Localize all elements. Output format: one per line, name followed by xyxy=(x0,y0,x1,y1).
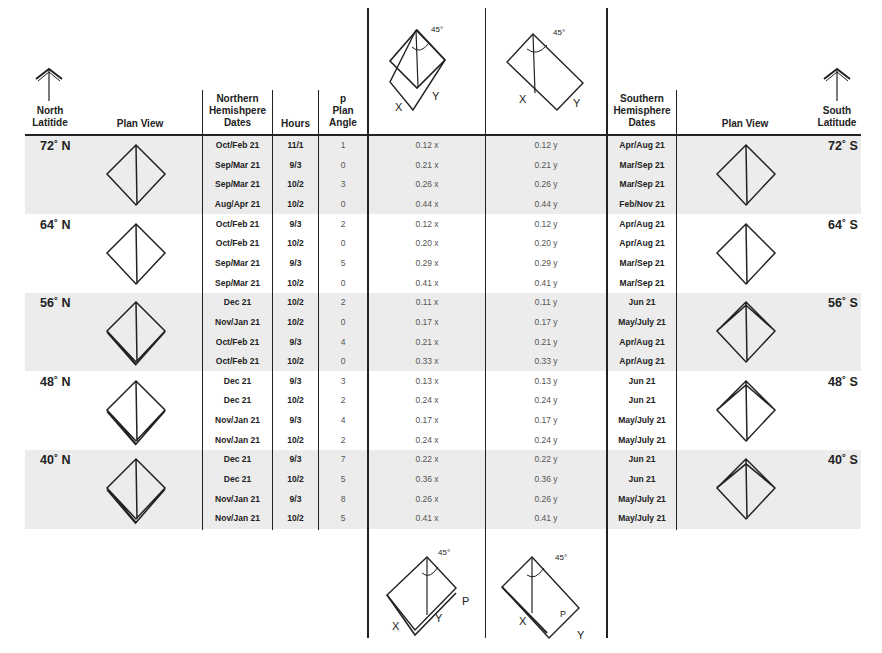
northern-date-cell: Sep/Mar 21 xyxy=(203,254,272,274)
northern-date-cell: Nov/Jan 21 xyxy=(203,490,272,510)
x-factor-cell: 0.12 x xyxy=(369,215,485,235)
svg-text:X: X xyxy=(519,93,527,105)
table-row: Nov/Jan 219/340.17 x0.17 yMay/July 21 xyxy=(0,411,882,431)
hours-cell: 10/2 xyxy=(273,431,318,451)
plan-angle-cell: 0 xyxy=(319,195,367,215)
header-hours: Hours xyxy=(273,118,318,130)
header-plan-angle: p Plan Angle xyxy=(319,93,367,129)
southern-date-cell: Jun 21 xyxy=(608,372,676,392)
x-factor-cell: 0.29 x xyxy=(369,254,485,274)
table-row: Oct/Feb 2110/200.33 x0.33 yApr/Aug 21 xyxy=(0,352,882,372)
svg-text:45°: 45° xyxy=(555,553,567,562)
y-factor-cell: 0.26 y xyxy=(486,175,606,195)
x-factor-cell: 0.21 x xyxy=(369,333,485,353)
hours-cell: 10/2 xyxy=(273,195,318,215)
plan-angle-cell: 2 xyxy=(319,293,367,313)
roof-diagram-top-y-icon: 45° X Y xyxy=(497,15,597,125)
southern-date-cell: May/July 21 xyxy=(608,490,676,510)
hours-cell: 10/2 xyxy=(273,470,318,490)
hours-cell: 9/3 xyxy=(273,254,318,274)
y-factor-cell: 0.13 y xyxy=(486,372,606,392)
northern-date-cell: Dec 21 xyxy=(203,450,272,470)
southern-date-cell: Jun 21 xyxy=(608,470,676,490)
header-northern-dates: Northern Hemishpere Dates xyxy=(203,93,272,129)
x-factor-cell: 0.41 x xyxy=(369,509,485,529)
header-plan-view-right: Plan View xyxy=(705,118,785,130)
hours-cell: 9/3 xyxy=(273,372,318,392)
northern-date-cell: Oct/Feb 21 xyxy=(203,136,272,156)
plan-angle-cell: 7 xyxy=(319,450,367,470)
table-row: Sep/Mar 2110/200.41 x0.41 yMar/Sep 21 xyxy=(0,274,882,294)
hours-cell: 9/3 xyxy=(273,156,318,176)
north-arrow-icon xyxy=(34,66,64,102)
svg-text:Y: Y xyxy=(573,97,581,109)
y-factor-cell: 0.26 y xyxy=(486,490,606,510)
table-row: Nov/Jan 2110/250.41 x0.41 yMay/July 21 xyxy=(0,509,882,529)
x-factor-cell: 0.17 x xyxy=(369,411,485,431)
table-row: Dec 219/370.22 x0.22 yJun 21 xyxy=(0,450,882,470)
x-factor-cell: 0.24 x xyxy=(369,431,485,451)
plan-angle-cell: 3 xyxy=(319,372,367,392)
roof-diagram-top-x-icon: 45° X Y xyxy=(380,15,480,125)
hours-cell: 10/2 xyxy=(273,509,318,529)
northern-date-cell: Nov/Jan 21 xyxy=(203,411,272,431)
svg-text:Y: Y xyxy=(577,629,585,641)
y-factor-cell: 0.22 y xyxy=(486,450,606,470)
table-row: Sep/Mar 219/300.21 x0.21 yMar/Sep 21 xyxy=(0,156,882,176)
northern-date-cell: Nov/Jan 21 xyxy=(203,313,272,333)
y-factor-cell: 0.12 y xyxy=(486,215,606,235)
plan-angle-cell: 5 xyxy=(319,470,367,490)
southern-date-cell: Mar/Sep 21 xyxy=(608,156,676,176)
y-factor-cell: 0.29 y xyxy=(486,254,606,274)
x-factor-cell: 0.17 x xyxy=(369,313,485,333)
northern-date-cell: Nov/Jan 21 xyxy=(203,509,272,529)
southern-date-cell: Apr/Aug 21 xyxy=(608,234,676,254)
plan-angle-cell: 1 xyxy=(319,136,367,156)
northern-date-cell: Sep/Mar 21 xyxy=(203,175,272,195)
northern-date-cell: Oct/Feb 21 xyxy=(203,352,272,372)
northern-date-cell: Dec 21 xyxy=(203,470,272,490)
y-factor-cell: 0.41 y xyxy=(486,509,606,529)
svg-text:Y: Y xyxy=(432,90,440,102)
plan-angle-cell: 5 xyxy=(319,254,367,274)
south-arrow-icon xyxy=(822,66,852,102)
header-south-latitude: South Latitude xyxy=(815,105,859,129)
svg-text:X: X xyxy=(395,101,403,113)
x-factor-cell: 0.33 x xyxy=(369,352,485,372)
southern-date-cell: Apr/Aug 21 xyxy=(608,136,676,156)
plan-angle-cell: 0 xyxy=(319,352,367,372)
hours-cell: 10/2 xyxy=(273,313,318,333)
roof-diagram-bottom-y-icon: 45° X Y P xyxy=(497,535,597,645)
northern-date-cell: Oct/Feb 21 xyxy=(203,215,272,235)
table-row: Sep/Mar 2110/230.26 x0.26 yMar/Sep 21 xyxy=(0,175,882,195)
plan-angle-cell: 2 xyxy=(319,215,367,235)
y-factor-cell: 0.17 y xyxy=(486,411,606,431)
roof-diagram-bottom-x-icon: 45° X Y P xyxy=(380,535,480,645)
svg-text:P: P xyxy=(462,595,469,607)
southern-date-cell: Mar/Sep 21 xyxy=(608,274,676,294)
hours-cell: 10/2 xyxy=(273,352,318,372)
table-row: Dec 2110/220.11 x0.11 yJun 21 xyxy=(0,293,882,313)
y-factor-cell: 0.11 y xyxy=(486,293,606,313)
plan-angle-cell: 5 xyxy=(319,509,367,529)
table-row: Nov/Jan 219/380.26 x0.26 yMay/July 21 xyxy=(0,490,882,510)
svg-text:45°: 45° xyxy=(431,25,443,34)
southern-date-cell: Jun 21 xyxy=(608,293,676,313)
header-southern-dates: Southern Hemisphere Dates xyxy=(608,93,676,129)
southern-date-cell: Mar/Sep 21 xyxy=(608,175,676,195)
header-plan-view-left: Plan View xyxy=(100,118,180,130)
x-factor-cell: 0.26 x xyxy=(369,490,485,510)
northern-date-cell: Oct/Feb 21 xyxy=(203,333,272,353)
southern-date-cell: Apr/Aug 21 xyxy=(608,215,676,235)
y-factor-cell: 0.12 y xyxy=(486,136,606,156)
table-row: Dec 2110/250.36 x0.36 yJun 21 xyxy=(0,470,882,490)
x-factor-cell: 0.26 x xyxy=(369,175,485,195)
y-factor-cell: 0.24 y xyxy=(486,431,606,451)
x-factor-cell: 0.44 x xyxy=(369,195,485,215)
southern-date-cell: May/July 21 xyxy=(608,431,676,451)
table-row: Sep/Mar 219/350.29 x0.29 yMar/Sep 21 xyxy=(0,254,882,274)
svg-text:45°: 45° xyxy=(438,548,450,557)
northern-date-cell: Aug/Apr 21 xyxy=(203,195,272,215)
southern-date-cell: Feb/Nov 21 xyxy=(608,195,676,215)
hours-cell: 9/3 xyxy=(273,333,318,353)
